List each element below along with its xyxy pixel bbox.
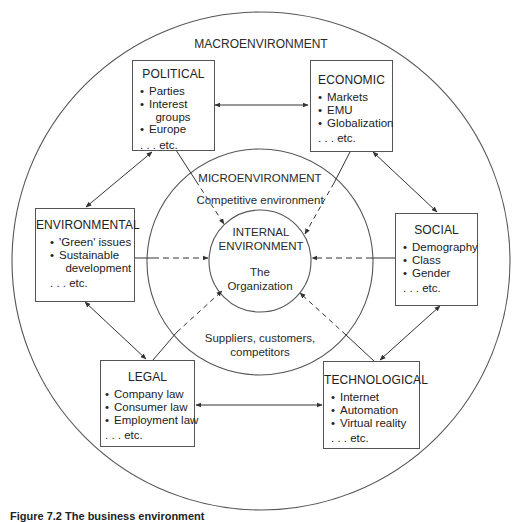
technological-item: Automation bbox=[331, 404, 419, 417]
arrow-political-environmental bbox=[86, 152, 152, 207]
economic-item: Markets bbox=[318, 91, 392, 104]
legal-item: Employment law bbox=[105, 414, 194, 427]
economic-title: ECONOMIC bbox=[311, 73, 392, 87]
arrow-economic-social bbox=[373, 152, 437, 212]
legal-title: LEGAL bbox=[101, 370, 194, 384]
political-item: Parties bbox=[140, 85, 214, 98]
internal-label-line2: ENVIRONMENT bbox=[219, 240, 304, 252]
economic-box: ECONOMIC Markets EMU Globalization . . .… bbox=[310, 60, 393, 152]
social-etc: . . . etc. bbox=[396, 282, 477, 294]
political-item: Interest groups bbox=[140, 98, 214, 124]
economic-item: EMU bbox=[318, 104, 392, 117]
organization-label-line1: The bbox=[250, 266, 270, 278]
environmental-title: ENVIRONMENTAL bbox=[36, 218, 134, 232]
legal-box: LEGAL Company law Consumer law Employmen… bbox=[100, 360, 195, 447]
technological-etc: . . . etc. bbox=[324, 432, 419, 444]
environmental-item: 'Green' issues bbox=[50, 236, 134, 249]
organization-label-line2: Organization bbox=[227, 280, 292, 292]
technological-box: TECHNOLOGICAL Internet Automation Virtua… bbox=[323, 361, 420, 449]
political-box: POLITICAL Parties Interest groups Europe… bbox=[132, 60, 215, 151]
suppliers-label-line2: competitors bbox=[230, 346, 289, 358]
environmental-box: ENVIRONMENTAL 'Green' issues Sustainable… bbox=[35, 208, 135, 302]
social-item: Class bbox=[403, 254, 477, 267]
figure-caption: Figure 7.2 The business environment bbox=[10, 510, 204, 522]
economic-etc: . . . etc. bbox=[311, 132, 392, 144]
legal-item: Company law bbox=[105, 388, 194, 401]
technological-item: Virtual reality bbox=[331, 417, 419, 430]
social-box: SOCIAL Demography Class Gender . . . etc… bbox=[395, 213, 478, 306]
social-item: Demography bbox=[403, 241, 477, 254]
political-etc: . . . etc. bbox=[133, 139, 214, 151]
technological-title: TECHNOLOGICAL bbox=[324, 373, 419, 387]
arrow-social-technological bbox=[380, 306, 440, 360]
suppliers-label-line1: Suppliers, customers, bbox=[205, 332, 316, 344]
internal-label-line1: INTERNAL bbox=[233, 226, 290, 238]
competitive-environment-label: Competitive environment bbox=[196, 194, 323, 206]
economic-item: Globalization bbox=[318, 117, 392, 130]
macroenvironment-label: MACROENVIRONMENT bbox=[194, 37, 327, 51]
social-title: SOCIAL bbox=[396, 223, 477, 237]
technological-item: Internet bbox=[331, 391, 419, 404]
arrow-environmental-legal bbox=[85, 302, 146, 359]
political-title: POLITICAL bbox=[133, 67, 214, 81]
legal-item: Consumer law bbox=[105, 401, 194, 414]
microenvironment-label: MICROENVIRONMENT bbox=[198, 172, 321, 184]
environmental-etc: . . . etc. bbox=[36, 277, 134, 289]
political-item: Europe bbox=[140, 123, 214, 136]
environmental-item: Sustainable development bbox=[50, 249, 134, 275]
social-item: Gender bbox=[403, 267, 477, 280]
legal-etc: . . . etc. bbox=[101, 429, 194, 441]
